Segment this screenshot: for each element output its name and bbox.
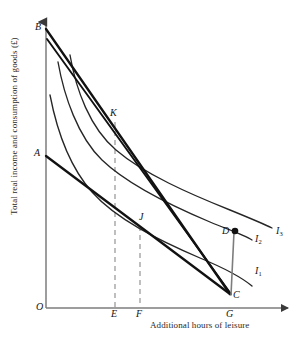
indifference-curve-plot [0, 0, 305, 344]
label-curve-I3: I3 [276, 226, 283, 236]
point-markers-group [232, 228, 239, 235]
indifference-curve-I3 [70, 55, 272, 228]
label-point-F: F [136, 309, 142, 319]
label-point-J: J [139, 212, 143, 222]
label-curve-I2: I2 [255, 234, 262, 244]
label-curve-I2-sub: 2 [259, 238, 262, 245]
budget-line-AC [46, 156, 230, 294]
label-point-A: A [34, 148, 40, 158]
label-curve-I1-sub: 1 [259, 270, 262, 277]
point-marker-D [232, 228, 239, 235]
label-point-G: G [226, 309, 233, 319]
label-point-B: B [35, 22, 41, 32]
x-axis-title: Additional hours of leisure [150, 320, 249, 330]
label-curve-I3-sub: 3 [280, 230, 283, 237]
label-point-K: K [110, 108, 117, 118]
axes-group [46, 22, 288, 308]
y-axis-title: Total real income and consumption of goo… [9, 55, 19, 215]
label-curve-I3-text: I [276, 225, 279, 236]
label-point-D: D [222, 226, 229, 236]
label-curve-I2-text: I [255, 233, 258, 244]
label-curve-I1-text: I [255, 265, 258, 276]
label-origin: O [36, 302, 43, 312]
label-point-E: E [111, 309, 117, 319]
transfer-segment-CD [231, 232, 234, 295]
label-point-C: C [233, 290, 240, 300]
figure-container: Total real income and consumption of goo… [0, 0, 305, 344]
label-curve-I1: I1 [255, 266, 262, 276]
indifference-curve-I1 [50, 95, 252, 286]
